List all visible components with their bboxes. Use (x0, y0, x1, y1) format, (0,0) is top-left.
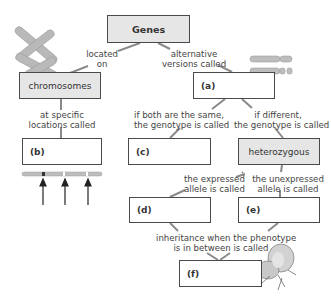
edge-label-line: at specific (28, 110, 96, 120)
edge-label-line: versions called (160, 59, 228, 69)
node-b-label: (b) (30, 147, 45, 157)
edge-label-if-different: if different, the genotype is called (234, 110, 322, 130)
edge-label-expressed-allele: the expressed allele is called (184, 174, 244, 194)
node-a-label: (a) (201, 81, 215, 91)
edge-label-line: the genotype is called (134, 120, 222, 130)
node-c-label: (c) (136, 147, 150, 157)
node-f-label: (f) (187, 269, 199, 279)
node-heterozygous: heterozygous (238, 138, 320, 165)
node-heterozygous-label: heterozygous (249, 147, 310, 157)
edge-label-in-between-inheritance: inheritance when the phenotype is in bet… (156, 233, 286, 253)
node-d-blank[interactable]: (d) (129, 197, 211, 223)
node-d-label: (d) (137, 205, 152, 215)
edge-label-specific-locations: at specific locations called (28, 110, 96, 130)
node-a-blank[interactable]: (a) (193, 72, 275, 99)
node-genes-label: Genes (132, 24, 165, 35)
edge-label-line: alternative (160, 49, 228, 59)
edge-label-line: is in between is called (156, 243, 286, 253)
node-chromosomes: chromosomes (19, 72, 101, 99)
edge-label-line: on (86, 59, 118, 69)
node-c-blank[interactable]: (c) (128, 138, 211, 165)
edge-label-line: allele is called (252, 184, 324, 194)
edge-label-alternative-versions: alternative versions called (160, 49, 228, 69)
edge-label-line: the unexpressed (252, 174, 324, 184)
edge-label-line: if different, (234, 110, 322, 120)
edge-label-unexpressed-allele: the unexpressed allele is called (252, 174, 324, 194)
node-f-blank[interactable]: (f) (179, 260, 262, 287)
edge-label-line: allele is called (184, 184, 244, 194)
edge-label-line: locations called (28, 120, 96, 130)
node-e-blank[interactable]: (e) (238, 197, 320, 223)
edge-label-located-on: located on (86, 49, 118, 69)
edge-label-both-same: if both are the same, the genotype is ca… (134, 110, 222, 130)
edge-label-line: the genotype is called (234, 120, 322, 130)
node-e-label: (e) (246, 205, 260, 215)
gene-loci-illustration (22, 172, 102, 205)
edge-label-line: located (86, 49, 118, 59)
edge-label-line: inheritance when the phenotype (156, 233, 286, 243)
node-chromosomes-label: chromosomes (28, 81, 91, 91)
edge-label-line: the expressed (184, 174, 244, 184)
node-b-blank[interactable]: (b) (22, 138, 102, 165)
node-genes: Genes (107, 15, 190, 43)
edge-label-line: if both are the same, (134, 110, 222, 120)
